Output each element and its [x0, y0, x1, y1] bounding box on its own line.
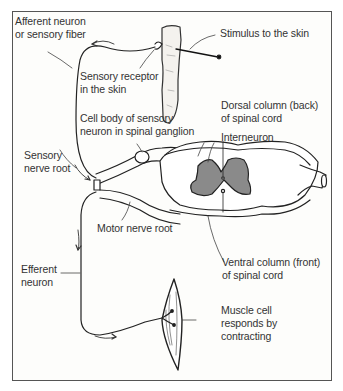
label-efferent-neuron: Efferentneuron: [21, 263, 57, 289]
label-sensory-receptor: Sensory receptorin the skin: [80, 70, 158, 96]
muscle-cell: [162, 279, 196, 370]
label-dorsal-column: Dorsal column (back)of spinal cord: [221, 99, 318, 125]
label-muscle-cell: Muscle cellresponds bycontracting: [221, 304, 277, 343]
label-interneuron: Interneuron: [221, 131, 274, 144]
label-motor-nerve-root: Motor nerve root: [97, 222, 172, 235]
label-ventral-column: Ventral column (front)of spinal cord: [222, 256, 320, 282]
spinal-ganglion: [135, 151, 149, 163]
efferent-fiber: [81, 192, 162, 335]
spinal-cord: [160, 141, 327, 216]
label-cell-body: Cell body of sensoryneuron in spinal gan…: [80, 112, 194, 138]
label-afferent-neuron: Afferent neuronor sensory fiber: [15, 15, 86, 41]
skin-patch: [162, 26, 181, 123]
stimulus-needle: [176, 35, 221, 59]
sensory-receptor: [155, 42, 162, 49]
reflex-arc-illustration: [0, 0, 343, 391]
label-stimulus: Stimulus to the skin: [220, 27, 309, 40]
label-sensory-nerve-root: Sensorynerve root: [24, 149, 70, 175]
